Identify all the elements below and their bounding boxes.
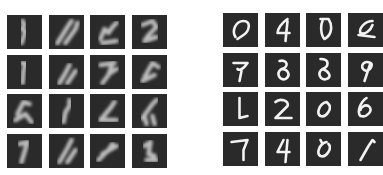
digit-glyph-icon — [7, 94, 42, 128]
digit-glyph-icon — [223, 53, 258, 87]
digit-tile — [90, 15, 125, 49]
digit-glyph-icon — [132, 15, 167, 49]
digit-tile — [49, 55, 84, 89]
digit-tile — [90, 134, 125, 168]
digit-tile — [49, 15, 84, 49]
digit-tile — [132, 15, 167, 49]
digit-glyph-icon — [132, 94, 167, 128]
digit-tile — [348, 13, 383, 47]
digit-tile — [306, 92, 341, 126]
digit-glyph-icon — [49, 15, 84, 49]
digit-tile — [223, 53, 258, 87]
digit-tile — [132, 134, 167, 168]
real-samples-grid — [223, 13, 383, 166]
digit-tile — [90, 94, 125, 128]
digit-tile — [7, 134, 42, 168]
digit-tile — [348, 53, 383, 87]
digit-tile — [49, 134, 84, 168]
digit-glyph-icon — [90, 94, 125, 128]
digit-tile — [265, 53, 300, 87]
digit-glyph-icon — [49, 55, 84, 89]
digit-glyph-icon — [265, 13, 300, 47]
digit-tile — [265, 13, 300, 47]
digit-tile — [306, 13, 341, 47]
digit-tile — [132, 55, 167, 89]
digit-glyph-icon — [223, 132, 258, 166]
digit-glyph-icon — [306, 132, 341, 166]
digit-glyph-icon — [132, 55, 167, 89]
digit-glyph-icon — [306, 92, 341, 126]
digit-tile — [348, 92, 383, 126]
digit-tile — [90, 55, 125, 89]
digit-glyph-icon — [348, 132, 383, 166]
digit-glyph-icon — [306, 13, 341, 47]
digit-glyph-icon — [265, 92, 300, 126]
digit-tile — [132, 94, 167, 128]
digit-glyph-icon — [7, 15, 42, 49]
digit-tile — [306, 132, 341, 166]
digit-glyph-icon — [265, 132, 300, 166]
generated-samples-grid — [7, 15, 167, 168]
digit-glyph-icon — [49, 134, 84, 168]
digit-glyph-icon — [90, 15, 125, 49]
digit-tile — [265, 132, 300, 166]
digit-tile — [348, 132, 383, 166]
digit-tile — [7, 15, 42, 49]
digit-glyph-icon — [348, 92, 383, 126]
digit-tile — [265, 92, 300, 126]
digit-glyph-icon — [49, 94, 84, 128]
digit-tile — [49, 94, 84, 128]
digit-glyph-icon — [265, 53, 300, 87]
digit-tile — [223, 13, 258, 47]
digit-glyph-icon — [90, 134, 125, 168]
digit-tile — [7, 94, 42, 128]
digit-glyph-icon — [7, 134, 42, 168]
digit-tile — [306, 53, 341, 87]
digit-glyph-icon — [223, 92, 258, 126]
digit-tile — [223, 132, 258, 166]
digit-glyph-icon — [348, 53, 383, 87]
digit-tile — [7, 55, 42, 89]
digit-glyph-icon — [223, 13, 258, 47]
digit-glyph-icon — [348, 13, 383, 47]
digit-glyph-icon — [90, 55, 125, 89]
digit-glyph-icon — [132, 134, 167, 168]
digit-glyph-icon — [306, 53, 341, 87]
digit-tile — [223, 92, 258, 126]
digit-glyph-icon — [7, 55, 42, 89]
